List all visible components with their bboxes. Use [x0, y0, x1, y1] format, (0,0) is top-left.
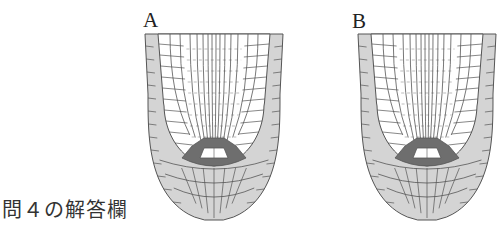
- root-tip-diagram-a[interactable]: [145, 34, 285, 224]
- panel-b-label: B: [352, 11, 366, 32]
- panel-a-label: A: [143, 10, 158, 31]
- root-tip-diagram-b[interactable]: [358, 34, 498, 224]
- answer-field-label: 問４の解答欄: [2, 194, 128, 223]
